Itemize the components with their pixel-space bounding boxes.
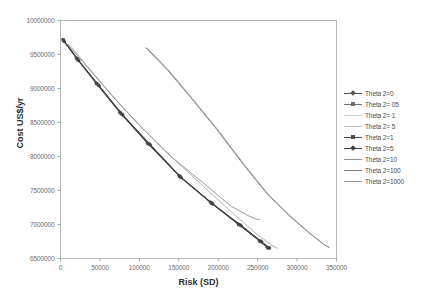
legend-swatch-icon: [344, 177, 362, 187]
legend-swatch-icon: [344, 144, 362, 154]
y-tick-label: 10000000: [9, 17, 55, 24]
legend-swatch-icon: [344, 100, 362, 110]
x-tick-label: 150000: [157, 264, 201, 271]
x-tick-label: 50000: [78, 264, 122, 271]
y-axis-title: Cost US$/yr: [15, 77, 25, 169]
legend-item-1[interactable]: Theta 2= 05: [344, 99, 424, 110]
legend-swatch-icon: [344, 133, 362, 143]
y-tick-label: 6500000: [9, 255, 55, 262]
series-line-5: [64, 42, 269, 249]
legend-label: Theta 2=1000: [365, 178, 404, 185]
legend-swatch-icon: [344, 155, 362, 165]
legend-item-5[interactable]: Theta 2=5: [344, 143, 424, 154]
legend-item-4[interactable]: Theta 2=1: [344, 132, 424, 143]
x-tick-label: 350000: [315, 264, 359, 271]
legend-label: Theta 2=1: [365, 134, 394, 141]
series-line-1: [64, 41, 269, 248]
legend-item-0[interactable]: Theta 2=0: [344, 88, 424, 99]
y-tick-label: 7000000: [9, 221, 55, 228]
legend-swatch-icon: [344, 166, 362, 176]
legend-item-3[interactable]: Theta 2= 5: [344, 121, 424, 132]
legend-label: Theta 2= 05: [365, 101, 399, 108]
y-tick-label: 9500000: [9, 51, 55, 58]
legend-label: Theta 2= 1: [365, 112, 395, 119]
legend-label: Theta 2=5: [365, 145, 394, 152]
legend-swatch-icon: [344, 89, 362, 99]
chart-container: 6500000700000075000008000000850000090000…: [0, 0, 424, 300]
series-line-2: [70, 45, 278, 248]
legend-swatch-icon: [344, 122, 362, 132]
x-tick-label: 0: [39, 264, 83, 271]
legend-item-2[interactable]: Theta 2= 1: [344, 110, 424, 121]
plot-frame: [61, 21, 337, 259]
legend-item-6[interactable]: Theta 2=10: [344, 154, 424, 165]
legend-item-8[interactable]: Theta 2=1000: [344, 176, 424, 187]
x-tick-label: 300000: [275, 264, 319, 271]
legend-label: Theta 2=10: [365, 156, 397, 163]
axis-ticks: [58, 21, 337, 262]
legend-label: Theta 2= 5: [365, 123, 395, 130]
series-line-6: [67, 44, 259, 220]
x-tick-label: 100000: [117, 264, 161, 271]
chart-legend: Theta 2=0Theta 2= 05Theta 2= 1Theta 2= 5…: [344, 88, 424, 187]
x-tick-label: 200000: [196, 264, 240, 271]
x-tick-label: 250000: [236, 264, 280, 271]
legend-item-7[interactable]: Theta 2=100: [344, 165, 424, 176]
y-tick-label: 7500000: [9, 187, 55, 194]
legend-label: Theta 2=0: [365, 90, 394, 97]
legend-swatch-icon: [344, 111, 362, 121]
legend-label: Theta 2=100: [365, 167, 401, 174]
x-axis-title: Risk (SD): [60, 277, 337, 287]
series-lines: [61, 38, 330, 251]
